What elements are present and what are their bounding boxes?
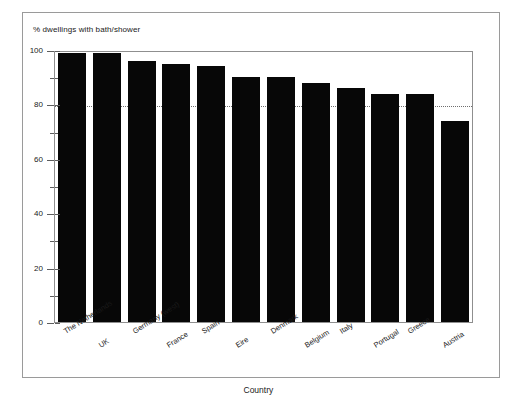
y-axis-tick-label: 0 [21, 318, 43, 327]
x-axis-tick-label: UK [97, 336, 111, 349]
bar [93, 53, 121, 322]
bar [441, 121, 469, 322]
y-axis-tick-inner [55, 214, 60, 215]
y-axis-tick [47, 269, 54, 270]
bar [267, 77, 295, 322]
y-axis-tick-inner [55, 105, 60, 106]
bar [337, 88, 365, 322]
y-axis-minor-tick-inner [55, 78, 58, 79]
y-axis-tick-label: 80 [21, 100, 43, 109]
y-axis-tick [47, 105, 54, 106]
x-axis-tick-label: Portugal [372, 327, 400, 349]
y-axis-tick-inner [55, 160, 60, 161]
plot-area [54, 51, 473, 323]
y-axis-tick-label: 60 [21, 155, 43, 164]
bar [128, 61, 156, 322]
bar [302, 83, 330, 322]
y-axis-tick [47, 323, 54, 324]
bar [406, 94, 434, 322]
x-axis-tick-label: Austria [441, 330, 466, 350]
chart-figure: % dwellings with bath/shower 02040608010… [22, 12, 500, 378]
y-axis-label: % dwellings with bath/shower [33, 25, 140, 34]
y-axis-minor-tick [50, 187, 54, 188]
y-axis-minor-tick-inner [55, 133, 58, 134]
bar [232, 77, 260, 322]
y-axis-tick-inner [55, 269, 60, 270]
y-axis-tick-label: 40 [21, 209, 43, 218]
y-axis-minor-tick [50, 78, 54, 79]
bar-series [55, 52, 472, 322]
bar [197, 66, 225, 322]
y-axis-tick-inner [55, 51, 60, 52]
y-axis-tick [47, 214, 54, 215]
x-axis-title: Country [244, 385, 274, 395]
y-axis-minor-tick [50, 241, 54, 242]
x-axis-tick-label: Eire [234, 335, 250, 350]
y-axis-minor-tick-inner [55, 187, 58, 188]
y-axis-tick [47, 51, 54, 52]
y-axis-minor-tick [50, 296, 54, 297]
y-axis-minor-tick [50, 133, 54, 134]
y-axis-minor-tick-inner [55, 296, 58, 297]
y-axis-tick-label: 20 [21, 264, 43, 273]
x-axis-tick-label: Belgium [303, 328, 331, 350]
x-axis-tick-label: France [165, 330, 190, 350]
y-axis-minor-tick-inner [55, 241, 58, 242]
bar [58, 53, 86, 322]
bar [162, 64, 190, 322]
bar [371, 94, 399, 322]
y-axis-tick-inner [55, 323, 60, 324]
y-axis-tick-label: 100 [21, 46, 43, 55]
y-axis-tick [47, 160, 54, 161]
